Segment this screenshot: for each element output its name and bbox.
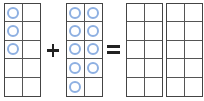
ten-frame-cell [127, 22, 145, 40]
counter-circle-icon [87, 43, 99, 55]
ten-frame-cell [67, 41, 85, 59]
ten-frame-cell [85, 41, 103, 59]
counter-circle-icon [87, 25, 99, 37]
counter-circle-icon [7, 43, 19, 55]
ten-frame-cell [23, 78, 41, 96]
ten-frame-cell [167, 78, 185, 96]
ten-frame-cell [185, 41, 203, 59]
ten-frame-cell [127, 78, 145, 96]
ten-frame-cell [85, 59, 103, 77]
ten-frame-cell [67, 78, 85, 96]
plus-vertical-stroke [52, 44, 55, 57]
ten-frame-cell [185, 22, 203, 40]
ten-frame-cell [67, 22, 85, 40]
ten-frame-cell [85, 22, 103, 40]
ten-frame-cell [127, 59, 145, 77]
counter-circle-icon [69, 81, 81, 93]
ten-frame-cell [167, 4, 185, 22]
ten-frame-cell [23, 41, 41, 59]
ten-frame-cell [23, 59, 41, 77]
ten-frame-cell [5, 22, 23, 40]
ten-frame-cell [23, 4, 41, 22]
equals-bottom-stroke [107, 51, 120, 54]
ten-frame-cell [145, 78, 163, 96]
ten-frame-cell [85, 4, 103, 22]
ten-frame-addend-2 [66, 3, 103, 97]
ten-frame-cell [23, 22, 41, 40]
counter-circle-icon [69, 62, 81, 74]
ten-frame-addend-1 [4, 3, 41, 97]
ten-frame-cell [167, 22, 185, 40]
ten-frame-cell [185, 78, 203, 96]
counter-circle-icon [69, 43, 81, 55]
ten-frame-cell [167, 41, 185, 59]
counter-circle-icon [69, 7, 81, 19]
ten-frame-cell [5, 4, 23, 22]
ten-frame-cell [145, 22, 163, 40]
counter-circle-icon [87, 62, 99, 74]
counter-circle-icon [7, 7, 19, 19]
counter-circle-icon [69, 25, 81, 37]
ten-frame-cell [127, 41, 145, 59]
ten-frame-cell [67, 59, 85, 77]
ten-frame-cell [67, 4, 85, 22]
ten-frame-cell [145, 59, 163, 77]
counter-circle-icon [7, 25, 19, 37]
ten-frame-sum-frame-1 [126, 3, 163, 97]
ten-frame-cell [145, 4, 163, 22]
ten-frame-cell [145, 41, 163, 59]
ten-frame-cell [167, 59, 185, 77]
equals-top-stroke [107, 45, 120, 48]
ten-frame-cell [5, 41, 23, 59]
ten-frame-cell [127, 4, 145, 22]
ten-frame-cell [185, 4, 203, 22]
ten-frame-cell [5, 59, 23, 77]
ten-frame-cell [185, 59, 203, 77]
counter-circle-icon [87, 7, 99, 19]
ten-frame-sum-frame-2 [166, 3, 203, 97]
ten-frame-cell [5, 78, 23, 96]
ten-frame-cell [85, 78, 103, 96]
